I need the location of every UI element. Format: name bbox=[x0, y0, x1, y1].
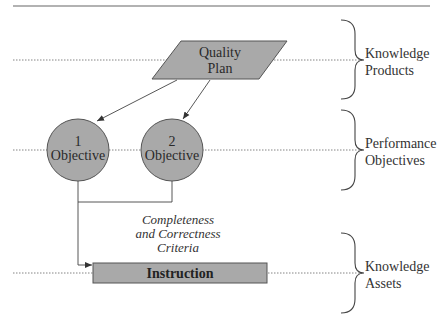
layer-1-line1: Knowledge bbox=[365, 46, 430, 61]
layer-1-line2: Products bbox=[365, 63, 414, 78]
criteria-label: Completeness and Correctness Criteria bbox=[135, 212, 220, 255]
objective-1-label: Objective bbox=[51, 148, 105, 163]
quality-plan-node[interactable]: Quality Plan bbox=[152, 41, 287, 79]
criteria-line1: Completeness bbox=[142, 212, 214, 227]
layer-label-performance-objectives: Performance Objectives bbox=[365, 136, 437, 168]
criteria-line2: and Correctness bbox=[135, 226, 220, 241]
quality-plan-line2: Plan bbox=[208, 61, 233, 76]
connector-to-instruction bbox=[78, 202, 92, 265]
instruction-label: Instruction bbox=[147, 266, 214, 281]
layer-2-line2: Objectives bbox=[365, 153, 425, 168]
diagram-canvas: Quality Plan 1 Objective 2 Objective Com… bbox=[0, 0, 445, 330]
instruction-node[interactable]: Instruction bbox=[93, 263, 267, 283]
connector-objectives-join bbox=[78, 181, 172, 202]
objective-2-number: 2 bbox=[169, 134, 176, 149]
objective-2-node[interactable]: 2 Objective bbox=[141, 119, 203, 181]
objective-1-node[interactable]: 1 Objective bbox=[47, 119, 109, 181]
arrow-plan-to-objective-2 bbox=[183, 80, 210, 119]
objective-2-label: Objective bbox=[145, 148, 199, 163]
layer-label-knowledge-products: Knowledge Products bbox=[365, 46, 430, 78]
layer-3-line2: Assets bbox=[365, 276, 402, 291]
layer-label-knowledge-assets: Knowledge Assets bbox=[365, 259, 430, 291]
layer-2-line1: Performance bbox=[365, 136, 437, 151]
objective-1-number: 1 bbox=[75, 134, 82, 149]
brace-knowledge-products bbox=[341, 20, 364, 99]
quality-plan-line1: Quality bbox=[199, 45, 241, 60]
layer-3-line1: Knowledge bbox=[365, 259, 430, 274]
arrow-plan-to-objective-1 bbox=[97, 80, 177, 121]
criteria-line3: Criteria bbox=[157, 240, 199, 255]
